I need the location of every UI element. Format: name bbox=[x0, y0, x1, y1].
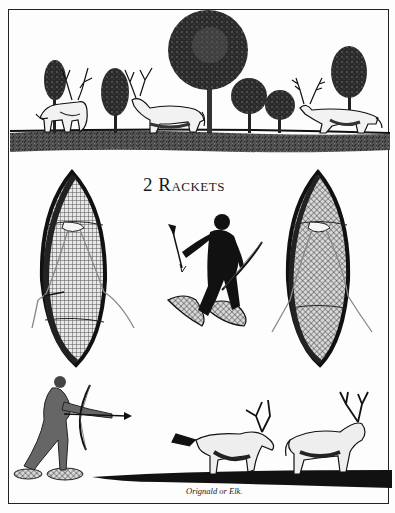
hunter-icon bbox=[168, 214, 262, 326]
right-snowshoe-icon bbox=[272, 172, 372, 365]
engraving-plate: 2 Rackets Orignald or Elk. bbox=[0, 0, 395, 513]
archer-icon bbox=[14, 376, 132, 480]
elk-icon bbox=[172, 400, 274, 474]
plate-title: 2 Rackets bbox=[143, 174, 225, 196]
top-landscape bbox=[10, 10, 390, 152]
engraving-illustration bbox=[0, 0, 395, 513]
tree-icon bbox=[101, 68, 129, 133]
ground-strip bbox=[10, 130, 390, 152]
tree-icon bbox=[231, 78, 267, 133]
left-snowshoe-icon bbox=[32, 172, 134, 365]
tree-icon bbox=[265, 90, 295, 133]
elk-icon bbox=[286, 392, 369, 474]
plate-caption: Orignald or Elk. bbox=[186, 486, 242, 496]
